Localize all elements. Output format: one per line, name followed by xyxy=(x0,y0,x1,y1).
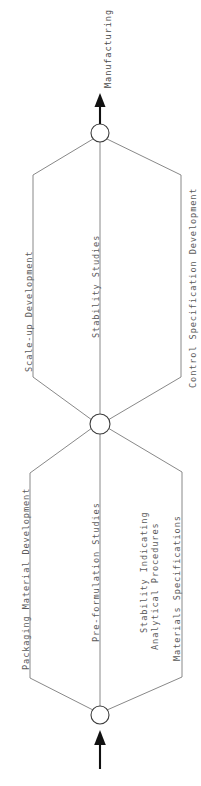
edge-control-specification-development xyxy=(107,139,181,420)
edge-materials-specifications xyxy=(107,428,182,710)
input-arrow xyxy=(94,730,106,769)
edge-scale-up-development xyxy=(33,139,93,420)
node-end[interactable] xyxy=(91,124,109,142)
output-arrow xyxy=(95,93,106,124)
node-middle[interactable] xyxy=(90,414,110,434)
network-diagram: Manufacturing Scale-up Development Stabi… xyxy=(0,0,201,786)
network-canvas xyxy=(0,0,201,786)
edge-packaging-material-development xyxy=(30,428,93,710)
stage-2-edges xyxy=(33,139,181,420)
stage-1-edges xyxy=(30,428,182,710)
node-start[interactable] xyxy=(91,706,109,724)
